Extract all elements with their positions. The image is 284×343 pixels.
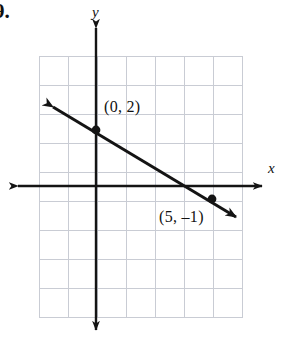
y-axis-label: y <box>92 4 99 21</box>
point-marker-5-neg1 <box>208 195 217 204</box>
point-marker-0-2 <box>92 126 101 135</box>
point-label-0-2: (0, 2) <box>104 98 140 116</box>
point-label-5-neg1: (5, –1) <box>159 208 204 226</box>
coordinate-plane-graphic <box>0 0 284 343</box>
graph-figure: 9. <box>0 0 284 343</box>
x-axis-label: x <box>268 160 275 177</box>
